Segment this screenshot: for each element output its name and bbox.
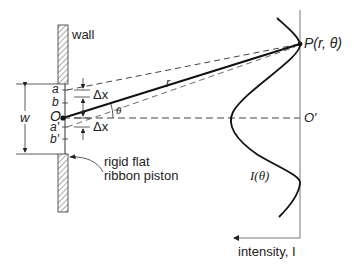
a-label: a (52, 83, 59, 95)
b-label: b (52, 96, 59, 108)
intensity-curve-label: I(θ) (250, 169, 269, 182)
wall-label: wall (72, 28, 94, 41)
delta-x-top-label: Δx (93, 88, 108, 101)
b-prime-label: b′ (50, 133, 59, 145)
r-label: r (166, 77, 170, 89)
delta-x-top-dimension (74, 78, 90, 112)
origin-prime-label: O′ (304, 111, 317, 124)
dashed-ray-top (67, 44, 300, 90)
piston-label-line2: ribbon piston (104, 169, 178, 182)
width-label: w (20, 111, 29, 124)
piston-label-line1: rigid flat (104, 155, 150, 168)
theta-arc (111, 104, 113, 118)
wall-lower (58, 154, 68, 212)
piston-leader (70, 157, 103, 172)
delta-x-bottom-label: Δx (93, 120, 108, 133)
intensity-axis-label: intensity, I (238, 245, 296, 258)
wall-upper (58, 25, 68, 84)
point-P-label: P(r, θ) (304, 36, 342, 50)
origin-point (60, 115, 65, 120)
theta-label: θ (116, 105, 121, 116)
